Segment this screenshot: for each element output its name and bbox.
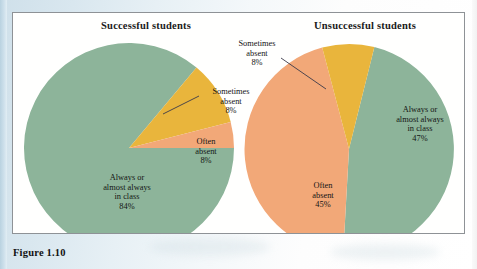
figure-frame: Successful students Unsuccessful student… xyxy=(12,12,465,234)
pie-label-line: absent xyxy=(221,49,293,59)
pie-label-right-green: Always or almost always in class 47% xyxy=(371,105,465,143)
pie-label-left-yellow: Sometimes absent 8% xyxy=(195,87,267,116)
pie-label-line: absent xyxy=(181,147,231,157)
pie-label-line: Sometimes xyxy=(221,39,293,49)
pie-label-line: almost always xyxy=(371,115,465,125)
pie-label-line: absent xyxy=(295,191,351,201)
pie-label-line: Sometimes xyxy=(195,87,267,97)
pie-label-value: 8% xyxy=(195,106,267,116)
pie-label-left-green: Always or almost always in class 84% xyxy=(71,173,183,211)
leader-line-left-yellow xyxy=(163,96,199,114)
pie-label-value: 45% xyxy=(295,200,351,210)
page-edge-left xyxy=(0,0,7,269)
pie-label-line: Always or xyxy=(371,105,465,115)
pie-label-line: almost always xyxy=(71,183,183,193)
pie-label-left-salmon: Often absent 8% xyxy=(181,137,231,166)
pie-label-value: 84% xyxy=(71,202,183,212)
pie-label-right-yellow: Sometimes absent 8% xyxy=(221,39,293,68)
scan-blotch xyxy=(150,238,270,256)
page-edge-right xyxy=(472,0,477,269)
pie-label-line: Often xyxy=(295,181,351,191)
pie-label-line: Always or xyxy=(71,173,183,183)
pie-label-line: in class xyxy=(71,192,183,202)
pie-label-line: in class xyxy=(371,124,465,134)
pie-slice-right-yellow xyxy=(322,44,374,149)
pie-label-value: 8% xyxy=(181,156,231,166)
figure-caption: Figure 1.10 xyxy=(13,247,66,258)
pie-label-line: Often xyxy=(181,137,231,147)
chart-title-unsuccessful: Unsuccessful students xyxy=(275,20,455,31)
pie-label-right-salmon: Often absent 45% xyxy=(295,181,351,210)
pie-label-line: absent xyxy=(195,97,267,107)
pie-label-value: 47% xyxy=(371,134,465,144)
scan-blotch xyxy=(330,244,440,260)
chart-title-successful: Successful students xyxy=(61,20,231,31)
pie-label-value: 8% xyxy=(221,58,293,68)
